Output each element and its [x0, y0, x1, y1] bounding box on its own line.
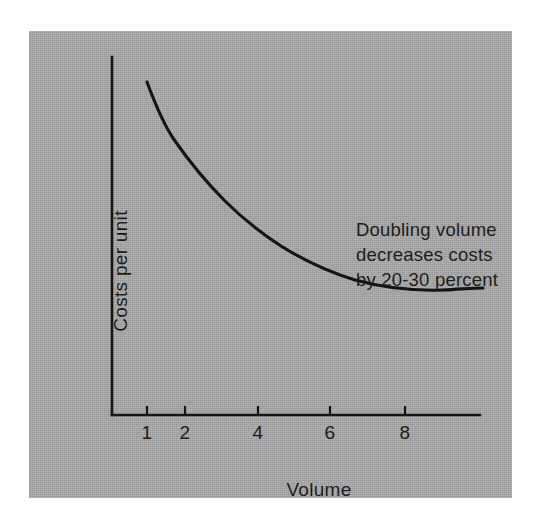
x-tick-label-2: 2	[180, 422, 191, 444]
annotation-line-1: Doubling volume	[356, 217, 498, 242]
chart-annotation: Doubling volume decreases costs by 20-30…	[356, 217, 498, 292]
annotation-line-2: decreases costs	[356, 242, 498, 267]
annotation-line-3: by 20-30 percent	[356, 267, 498, 292]
x-tick-label-1: 1	[142, 422, 153, 444]
x-tick-label-4: 4	[253, 422, 264, 444]
x-tick-label-6: 6	[325, 422, 336, 444]
y-axis-title: Costs per unit	[110, 210, 132, 331]
x-axis-title: Volume	[286, 479, 351, 498]
chart-page: 1 2 4 6 8 Volume Costs per unit Doubling…	[0, 0, 535, 524]
x-tick-label-8: 8	[400, 422, 411, 444]
chart-panel: 1 2 4 6 8 Volume Costs per unit Doubling…	[29, 31, 512, 498]
